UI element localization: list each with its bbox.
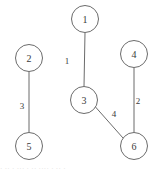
graph-edge-3-6: [96, 107, 124, 138]
node-label-4: 4: [132, 49, 137, 60]
edge-weight-label-1-3: 1: [65, 56, 70, 66]
graph-node-5: 5: [16, 133, 43, 160]
node-label-1: 1: [83, 14, 88, 25]
nodes-layer: 123456: [16, 6, 148, 160]
graph-node-1: 1: [72, 6, 99, 33]
edge-weight-label-3-6: 4: [112, 109, 117, 119]
graph-canvas: 123456 1324: [0, 0, 162, 173]
graph-node-2: 2: [16, 45, 43, 72]
graph-node-6: 6: [121, 133, 148, 160]
node-label-2: 2: [27, 53, 32, 64]
graph-node-3: 3: [71, 87, 98, 114]
graph-node-4: 4: [121, 41, 148, 68]
graph-figure: 123456 1324 · ·· · ··· · ·· ···· · ·· ·: [0, 0, 162, 173]
caption-smudge: · ·· · ··· · ·· ···· · ·· ·: [0, 165, 162, 173]
node-label-6: 6: [132, 141, 137, 152]
node-label-5: 5: [27, 141, 32, 152]
edges-layer: [29, 33, 134, 139]
node-label-3: 3: [82, 95, 87, 106]
edge-weight-label-2-5: 3: [20, 101, 25, 111]
graph-edge-1-3: [84, 33, 85, 87]
edge-weight-label-4-6: 2: [136, 96, 141, 106]
